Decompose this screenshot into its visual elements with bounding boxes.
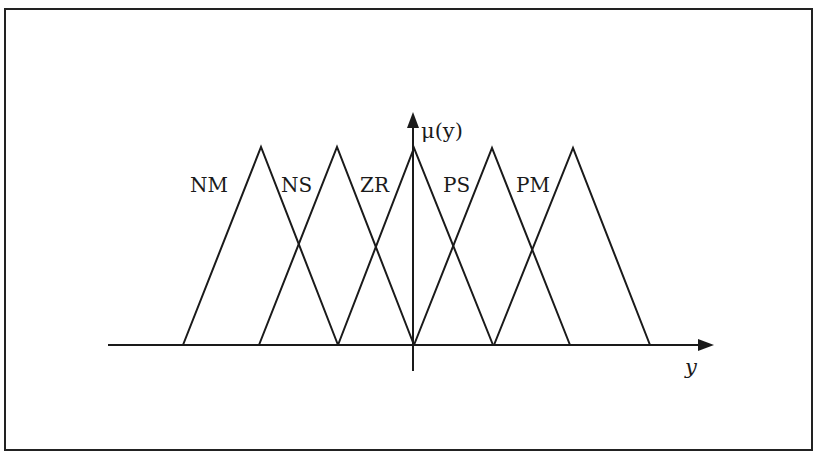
label-nm: NM: [190, 173, 228, 197]
fuzzy-membership-diagram: NM NS ZR PS PM μ(y) y: [0, 0, 816, 459]
label-zr: ZR: [360, 173, 390, 197]
label-pm: PM: [516, 173, 550, 197]
label-ns: NS: [281, 173, 312, 197]
diagram-frame: [5, 9, 812, 450]
y-axis-label: μ(y): [421, 119, 463, 143]
label-ps: PS: [443, 173, 470, 197]
x-axis-label: y: [684, 355, 698, 379]
